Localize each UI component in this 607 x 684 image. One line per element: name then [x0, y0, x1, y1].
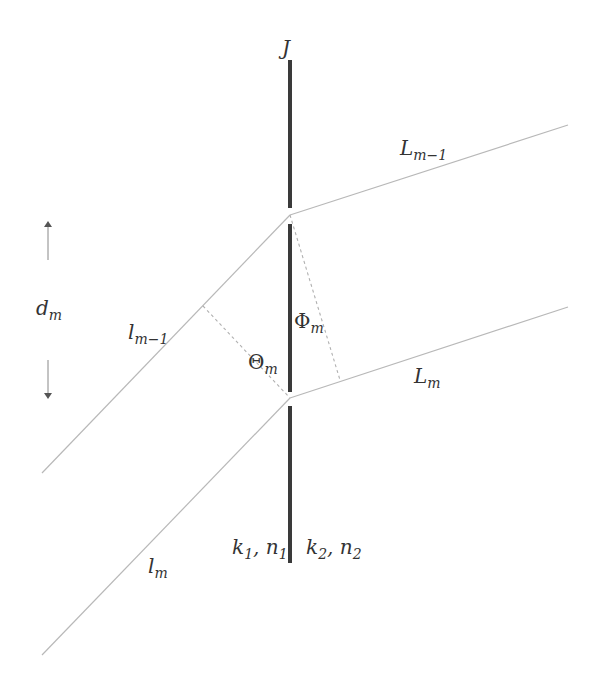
label-interface-j: J [282, 38, 290, 58]
label-medium-1: k1, n1 [232, 537, 288, 561]
label-d-m: dm [36, 298, 62, 322]
label-phi-m: Φm [294, 311, 324, 335]
ray-l-m [42, 398, 290, 655]
incident-rays [42, 215, 290, 655]
label-L-m-1: Lm−1 [400, 138, 447, 162]
label-l-m-1: lm−1 [128, 322, 168, 346]
label-l-m: lm [148, 556, 168, 580]
phi-perpendicular [290, 215, 340, 380]
diagram-canvas: J Lm−1 Lm lm−1 lm dm Φm Θm k1, n1 k2, n2 [0, 0, 607, 684]
diagram-lines [0, 0, 607, 684]
refracted-rays [290, 125, 568, 398]
label-L-m: Lm [414, 366, 441, 390]
label-theta-m: Θm [248, 352, 278, 376]
label-medium-2: k2, n2 [306, 537, 362, 561]
